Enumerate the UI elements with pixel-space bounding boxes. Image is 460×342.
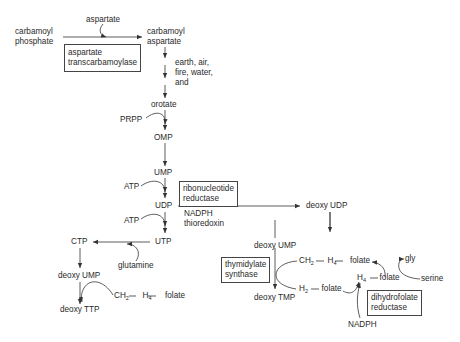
- text-folate: folate: [380, 273, 400, 282]
- label-line: phosphate: [15, 37, 53, 47]
- subscript: 4: [363, 277, 366, 283]
- subscript: 4: [148, 295, 151, 301]
- cofactor-ch2-h4-folate-right: CH2 H4 folate: [299, 256, 370, 268]
- node-prpp: PRPP: [120, 115, 142, 125]
- cofactor-nadph-2: NADPH: [348, 320, 377, 330]
- label-line: dihydrofolate: [371, 293, 418, 303]
- text-folate: folate: [350, 256, 370, 265]
- label-line: thioredoxin: [184, 219, 224, 229]
- label-line: synthase: [225, 270, 266, 280]
- text-ch: CH: [299, 256, 311, 265]
- label-line: aspartate: [68, 48, 137, 58]
- node-orotate: orotate: [151, 100, 177, 110]
- node-gly: gly: [405, 254, 415, 264]
- label-line: thymidylate: [225, 260, 266, 270]
- label-line: fire, water,: [175, 68, 213, 78]
- node-deoxy-ttp: deoxy TTP: [60, 305, 99, 315]
- node-udp: UDP: [155, 201, 172, 211]
- enzyme-aspartate-transcarbamoylase: aspartate transcarbamoylase: [64, 44, 141, 72]
- node-deoxy-ump-right: deoxy UMP: [254, 241, 296, 251]
- label-line: and: [175, 78, 213, 88]
- cofactor-h4-folate: H4 folate: [357, 273, 400, 285]
- node-ctp: CTP: [71, 237, 87, 247]
- subscript: 2: [311, 260, 314, 266]
- label-line: NADPH: [184, 209, 224, 219]
- node-carbamoyl-phosphate: carbamoyl phosphate: [15, 27, 53, 47]
- node-deoxy-udp: deoxy UDP: [306, 201, 347, 211]
- label-line: ribonucleotide: [183, 184, 234, 194]
- node-aspartate: aspartate: [86, 15, 120, 25]
- text-folate: folate: [322, 284, 342, 293]
- cofactor-ch2-h4-folate-left: CH2 H4 folate: [114, 291, 185, 303]
- label-line: carbamoyl: [147, 27, 185, 37]
- label-line: aspartate: [147, 37, 185, 47]
- node-omp: OMP: [154, 133, 173, 143]
- enzyme-dihydrofolate-reductase: dihydrofolate reductase: [367, 290, 422, 316]
- node-atp-1: ATP: [124, 182, 139, 192]
- node-carbamoyl-aspartate: carbamoyl aspartate: [147, 27, 185, 47]
- node-deoxy-tmp: deoxy TMP: [254, 293, 295, 303]
- subscript: 4: [333, 260, 336, 266]
- text-ch: CH: [114, 291, 126, 300]
- node-ump: UMP: [154, 168, 172, 178]
- arrow-aspartate-in: [100, 24, 106, 37]
- label-line: earth, air,: [175, 58, 213, 68]
- node-deoxy-ump-left: deoxy UMP: [58, 271, 100, 281]
- enzyme-thymidylate-synthase: thymidylate synthase: [221, 257, 270, 283]
- label-line: carbamoyl: [15, 27, 53, 37]
- label-line: transcarbamoylase: [68, 58, 137, 68]
- node-serine: serine: [421, 274, 443, 284]
- subscript: 2: [126, 295, 129, 301]
- label-line: reductase: [183, 194, 234, 204]
- node-utp: UTP: [155, 237, 171, 247]
- label-line: reductase: [371, 303, 418, 313]
- node-steps-note: earth, air, fire, water, and: [175, 58, 213, 88]
- node-glutamine: glutamine: [118, 261, 154, 271]
- node-atp-2: ATP: [124, 216, 139, 226]
- subscript: 2: [305, 288, 308, 294]
- cofactor-h2-folate: H2 folate: [299, 284, 342, 296]
- enzyme-ribonucleotide-reductase: ribonucleotide reductase: [179, 181, 238, 207]
- text-folate: folate: [165, 291, 185, 300]
- cofactor-nadph-1: NADPH thioredoxin: [184, 209, 224, 229]
